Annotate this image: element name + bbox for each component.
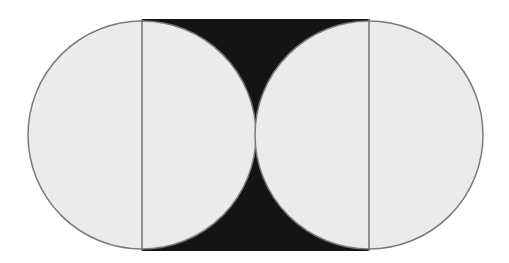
- circles-diagram: [0, 0, 509, 263]
